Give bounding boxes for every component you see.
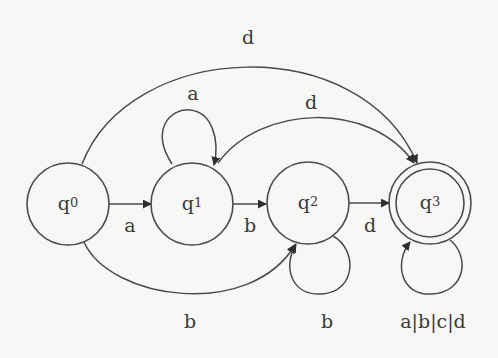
edge-label: b [244, 214, 256, 236]
edge-label: d [242, 26, 254, 48]
state-q2-label: q2 [298, 191, 318, 213]
edge-q0-q3: d [82, 26, 417, 164]
edge-q1-q2: b [233, 204, 266, 236]
edge-q1-self: a [162, 82, 216, 165]
edge-label: d [305, 91, 317, 113]
edge-q1-q3: d [218, 91, 414, 163]
state-q0: q0 [27, 163, 109, 245]
state-q1: q1 [151, 163, 233, 245]
edge-q0-q2: b [84, 242, 295, 332]
edge-label: b [321, 310, 333, 332]
edge-label: a [124, 214, 135, 236]
edge-q3-self: a|b|c|d [400, 240, 466, 333]
state-q2: q2 [267, 162, 349, 244]
state-q3-label: q3 [420, 191, 440, 213]
state-q1-label: q1 [182, 192, 202, 214]
edge-q2-self: b [290, 236, 350, 332]
automaton-diagram: q0 q1 q2 q3 a b d a b d [0, 0, 498, 358]
edge-q2-q3: d [349, 203, 389, 236]
edge-label: a [187, 82, 198, 104]
edge-label: b [184, 310, 196, 332]
state-q3-accepting: q3 [389, 162, 471, 244]
edge-label: a|b|c|d [400, 310, 466, 333]
edge-label: d [364, 214, 376, 236]
state-q0-label: q0 [58, 192, 78, 214]
edge-q0-q1: a [109, 204, 151, 236]
